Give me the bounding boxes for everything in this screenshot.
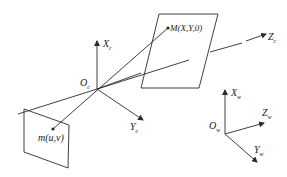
- zw-axis: [225, 123, 264, 134]
- zw-label: Zw: [262, 108, 272, 118]
- yc-label: Yc: [130, 122, 138, 132]
- zc-axis-dash: [246, 34, 266, 41]
- zc-axis-inner: [97, 73, 141, 89]
- zc-axis-outer: [210, 43, 242, 52]
- yw-label: Yw: [254, 145, 264, 155]
- yc-axis: [97, 89, 143, 120]
- coordinate-diagram: [0, 0, 287, 177]
- world-point-label: M(X,Y,0): [170, 24, 202, 33]
- image-point-dot: [51, 127, 54, 130]
- image-point-label: m(u,v): [38, 133, 64, 143]
- oc-label: Oc: [80, 78, 90, 88]
- xw-label: Xw: [231, 88, 241, 98]
- ow-label: Ow: [209, 121, 220, 131]
- yw-axis: [225, 134, 257, 162]
- zc-label: Zc: [268, 32, 276, 42]
- xc-label: Xc: [103, 39, 112, 49]
